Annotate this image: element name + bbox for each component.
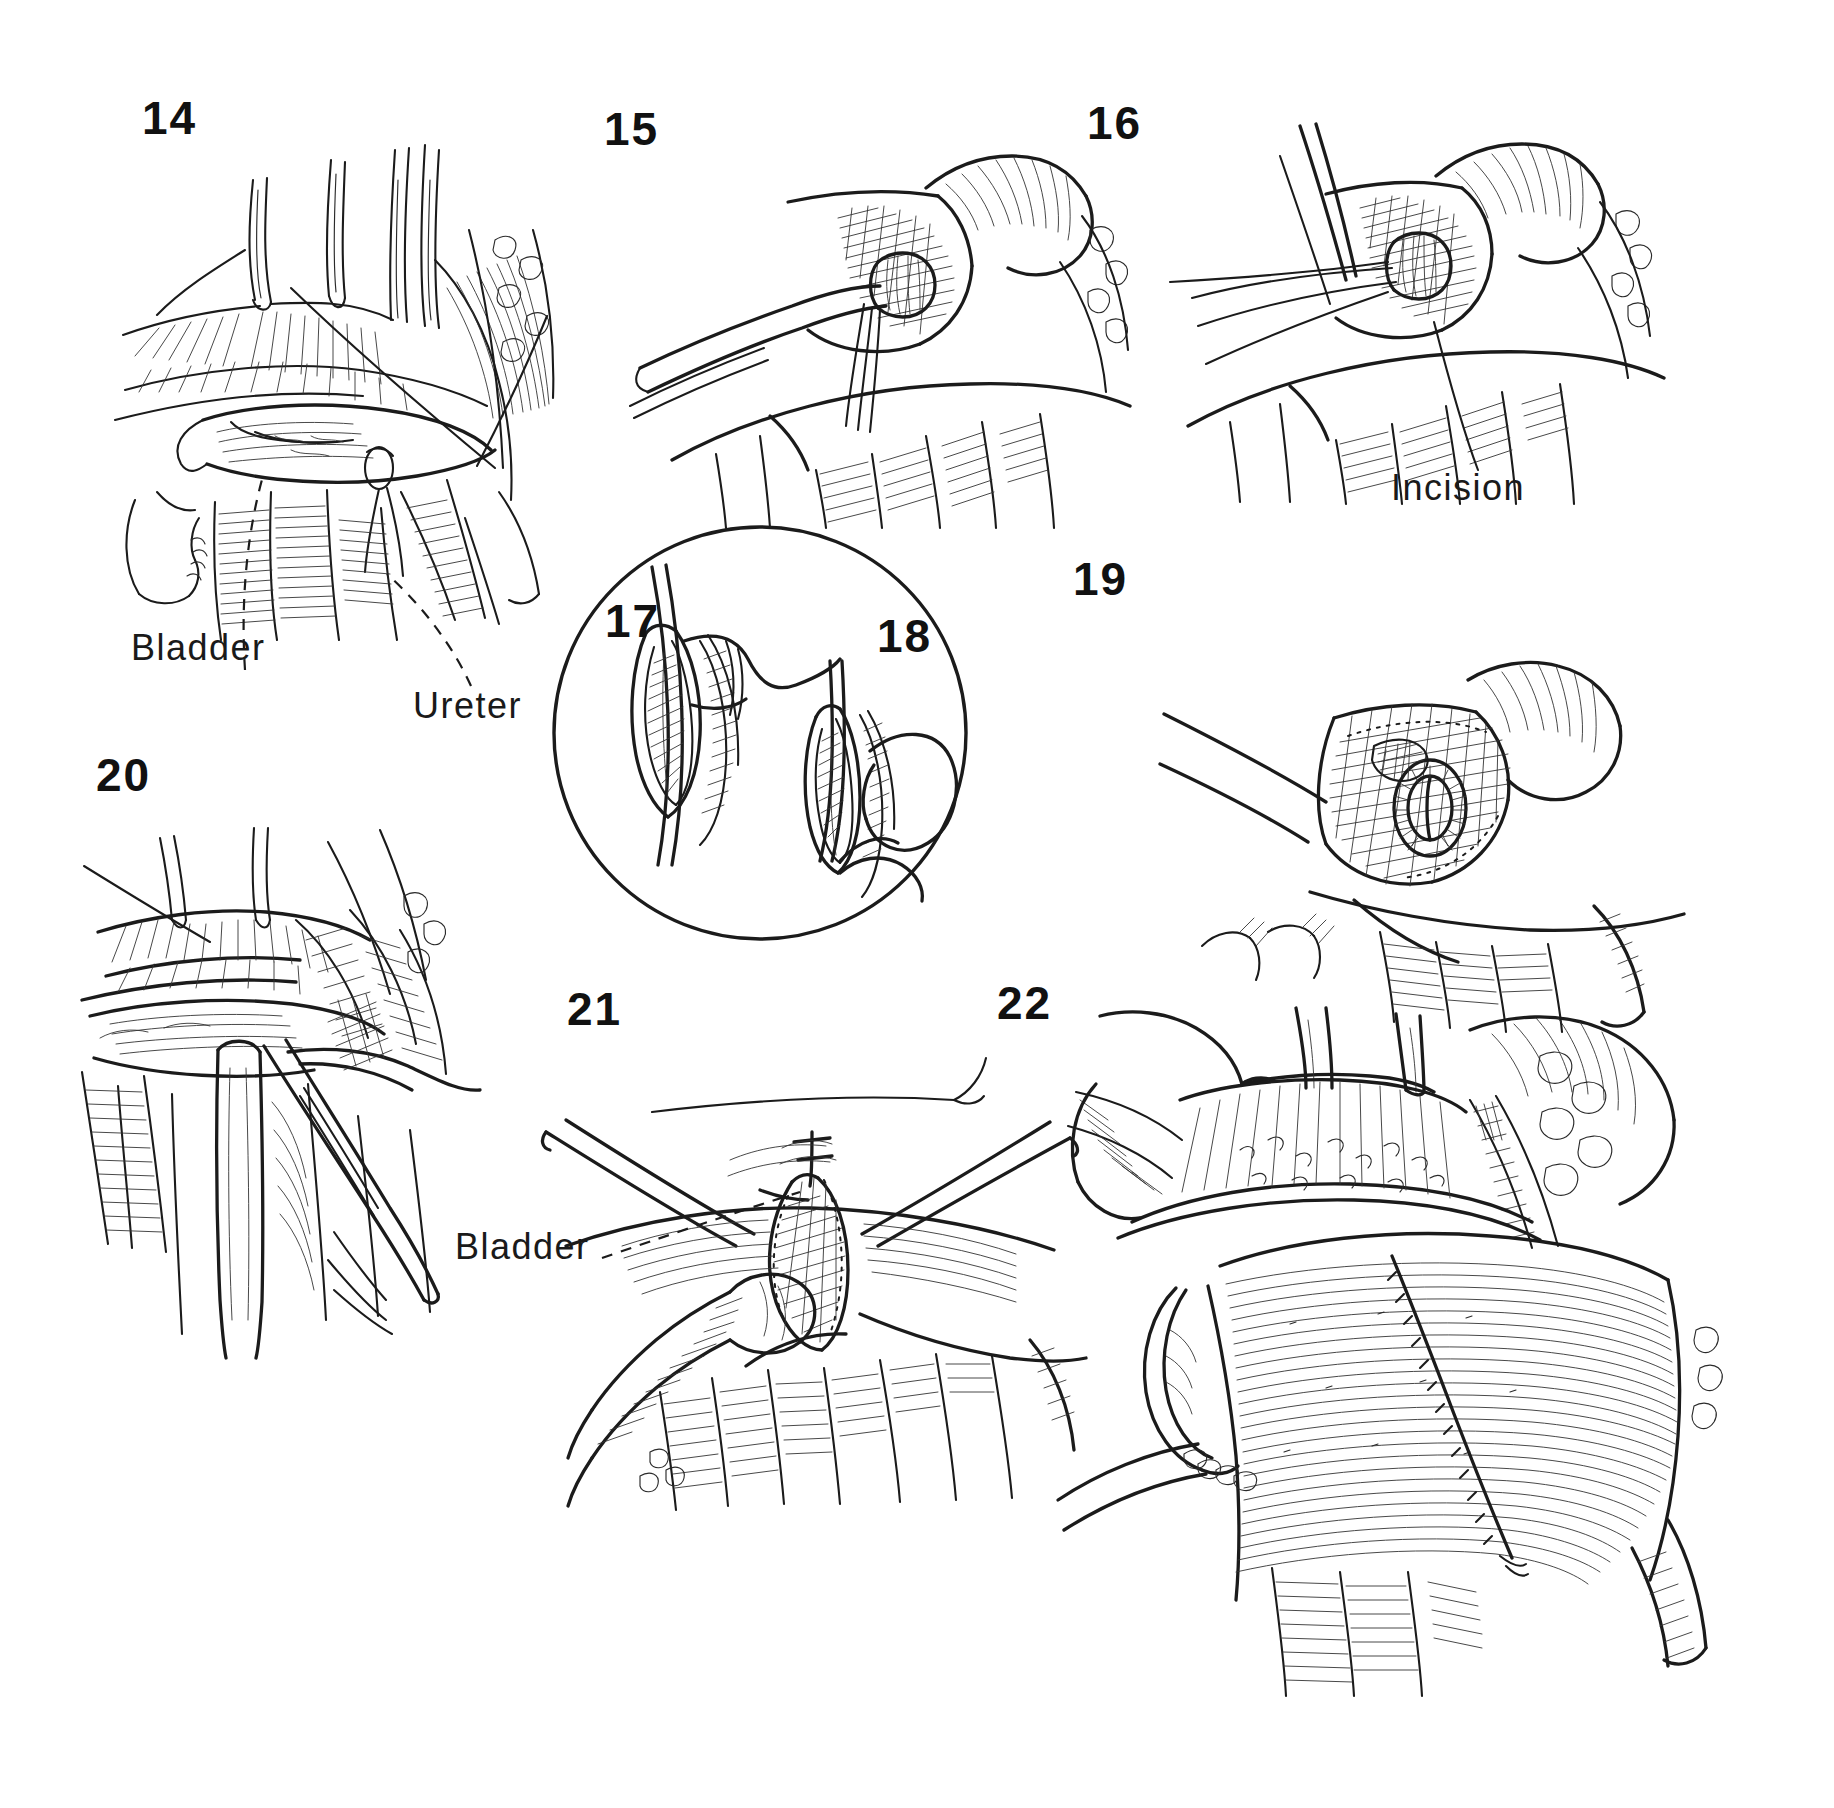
figure-20-artwork (60, 800, 520, 1360)
figure-number-19: 19 (1073, 556, 1128, 602)
figure-15-artwork (620, 130, 1140, 530)
figure-22-artwork (1040, 1000, 1780, 1700)
label-incision-fig16: Incision (1391, 470, 1525, 506)
figure-number-17: 17 (605, 598, 660, 644)
inset-circle-17-18 (540, 513, 980, 953)
illustration-plate: 14 (0, 0, 1834, 1808)
label-bladder-fig21: Bladder (455, 1229, 590, 1265)
figure-16-artwork (1130, 120, 1670, 520)
figure-21-leader (590, 1180, 850, 1270)
label-ureter-fig14: Ureter (413, 688, 522, 724)
figure-19-artwork (1150, 650, 1710, 1050)
label-bladder-fig14: Bladder (131, 630, 266, 666)
figure-number-20: 20 (96, 752, 151, 798)
figure-number-18: 18 (877, 613, 932, 659)
figure-21-artwork (530, 1020, 1090, 1520)
